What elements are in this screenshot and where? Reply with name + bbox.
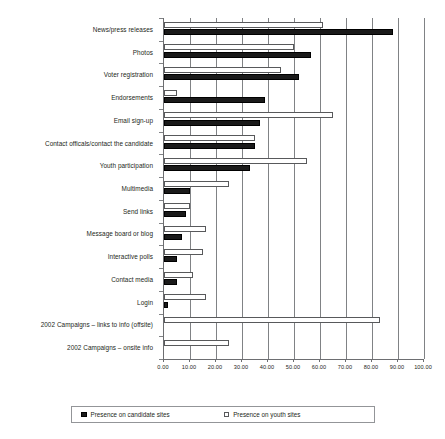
category-label: 2002 Campaigns – links to info (offsite): [0, 314, 158, 337]
bar-youth-sites: [164, 158, 307, 164]
bar-youth-sites: [164, 272, 193, 278]
plot-area: News/press releasesPhotosVoter registrat…: [0, 0, 445, 396]
bar-candidate-sites: [164, 29, 393, 35]
bar-youth-sites: [164, 249, 203, 255]
y-axis-tick: [159, 245, 163, 246]
x-axis-tick-label: 50.00: [286, 364, 301, 370]
x-axis-tick-label: 30.00: [234, 364, 249, 370]
legend-item-youth-sites: Presence on youth sites: [224, 411, 301, 418]
x-axis-tick: [397, 359, 398, 362]
bar-row: [164, 132, 424, 155]
x-axis-tick: [267, 359, 268, 362]
bar-row: [164, 41, 424, 64]
bar-row: [164, 336, 424, 359]
bar-candidate-sites: [164, 52, 311, 58]
y-axis-tick: [159, 86, 163, 87]
x-axis-tick-label: 90.00: [390, 364, 405, 370]
category-label: Photos: [0, 41, 158, 64]
bar-youth-sites: [164, 317, 380, 323]
bar-youth-sites: [164, 294, 206, 300]
x-axis-tick-label: 80.00: [364, 364, 379, 370]
bar-candidate-sites: [164, 97, 265, 103]
legend-label-youth-sites: Presence on youth sites: [233, 411, 300, 418]
x-axis-tick-label: 40.00: [260, 364, 275, 370]
bar-candidate-sites: [164, 302, 168, 308]
y-axis-tick: [159, 18, 163, 19]
bar-candidate-sites: [164, 279, 177, 285]
category-label: Contact officals/contact the candidate: [0, 132, 158, 155]
category-label: Contact media: [0, 268, 158, 291]
x-axis-tick-label: 70.00: [338, 364, 353, 370]
y-axis-tick: [159, 200, 163, 201]
bar-row: [164, 314, 424, 337]
category-axis-labels: News/press releasesPhotosVoter registrat…: [0, 18, 158, 359]
category-label: Voter registration: [0, 63, 158, 86]
category-label: 2002 Campaigns – onsite info: [0, 336, 158, 359]
chart-legend: Presence on candidate sites Presence on …: [71, 406, 375, 423]
y-axis-tick: [159, 314, 163, 315]
x-axis-tick: [293, 359, 294, 362]
category-label: Send links: [0, 200, 158, 223]
x-axis-tick-label: 10.00: [182, 364, 197, 370]
bar-row: [164, 245, 424, 268]
x-axis-tick: [371, 359, 372, 362]
y-axis-tick: [159, 223, 163, 224]
bar-youth-sites: [164, 90, 177, 96]
bar-row: [164, 63, 424, 86]
bar-candidate-sites: [164, 143, 255, 149]
category-label: Endorsements: [0, 86, 158, 109]
category-label: News/press releases: [0, 18, 158, 41]
plot-canvas: [163, 18, 424, 359]
gridline: [424, 18, 425, 359]
category-label: Email sign-up: [0, 109, 158, 132]
bar-rows: [164, 18, 424, 359]
bar-youth-sites: [164, 112, 333, 118]
bar-row: [164, 86, 424, 109]
x-axis-tick: [423, 359, 424, 362]
bar-youth-sites: [164, 67, 281, 73]
bar-youth-sites: [164, 203, 190, 209]
y-axis-tick: [159, 291, 163, 292]
category-label: Multimedia: [0, 177, 158, 200]
empty-square-icon: [224, 412, 230, 418]
bar-youth-sites: [164, 135, 255, 141]
x-axis-tick-label: 100.00: [414, 364, 432, 370]
bar-candidate-sites: [164, 256, 177, 262]
bar-row: [164, 109, 424, 132]
x-axis-tick: [345, 359, 346, 362]
legend-label-candidate-sites: Presence on candidate sites: [91, 411, 170, 418]
bar-row: [164, 223, 424, 246]
bar-youth-sites: [164, 22, 323, 28]
bar-youth-sites: [164, 226, 206, 232]
bar-row: [164, 177, 424, 200]
x-axis-tick: [241, 359, 242, 362]
y-axis-tick: [159, 109, 163, 110]
bar-youth-sites: [164, 181, 229, 187]
bar-chart: News/press releasesPhotosVoter registrat…: [0, 0, 445, 439]
x-axis-tick: [163, 359, 164, 362]
bar-candidate-sites: [164, 120, 260, 126]
bar-row: [164, 18, 424, 41]
bar-youth-sites: [164, 44, 294, 50]
bar-row: [164, 154, 424, 177]
y-axis-tick: [159, 63, 163, 64]
bar-candidate-sites: [164, 74, 299, 80]
bar-candidate-sites: [164, 165, 250, 171]
filled-square-icon: [81, 412, 87, 418]
bar-candidate-sites: [164, 234, 182, 240]
bar-row: [164, 268, 424, 291]
category-label: Interactive polls: [0, 245, 158, 268]
bar-candidate-sites: [164, 211, 186, 217]
bar-candidate-sites: [164, 188, 190, 194]
x-axis-tick: [189, 359, 190, 362]
x-axis-tick-label: 60.00: [312, 364, 327, 370]
bar-row: [164, 200, 424, 223]
category-label: Youth participation: [0, 154, 158, 177]
bar-row: [164, 291, 424, 314]
y-axis-tick: [159, 268, 163, 269]
y-axis-tick: [159, 154, 163, 155]
x-axis-tick-label: 20.00: [208, 364, 223, 370]
bar-youth-sites: [164, 340, 229, 346]
x-axis-tick-labels: 0.0010.0020.0030.0040.0050.0060.0070.008…: [0, 364, 445, 376]
x-axis-tick-label: 0.00: [157, 364, 168, 370]
